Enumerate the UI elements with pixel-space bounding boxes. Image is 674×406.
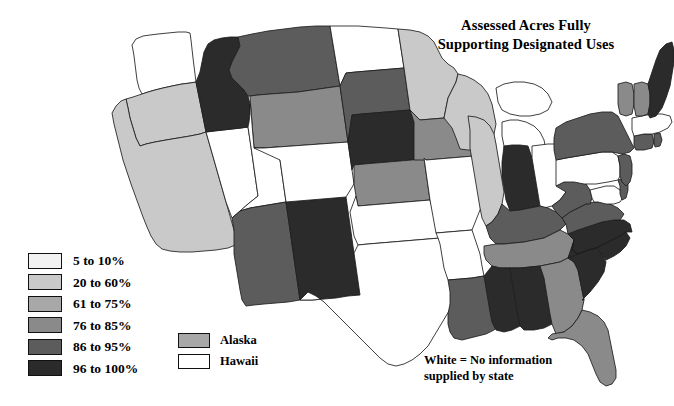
state-KS[interactable] (354, 158, 430, 206)
inset-legend-label: Hawaii (220, 355, 258, 368)
legend-label: 5 to 10% (73, 254, 125, 268)
no-data-note-line-1: White = No information (424, 352, 614, 368)
state-RI[interactable] (654, 133, 662, 147)
legend-label: 86 to 95% (73, 340, 132, 354)
legend-swatch (28, 360, 62, 376)
state-VT[interactable] (618, 82, 634, 116)
inset-legend-label: Alaska (220, 334, 257, 347)
state-NY[interactable] (554, 112, 634, 160)
no-data-note: White = No information supplied by state (424, 352, 614, 385)
legend-label: 61 to 75% (73, 297, 132, 311)
chart-title-line-2: Supporting Designated Uses (392, 35, 660, 54)
state-WY[interactable] (250, 86, 348, 148)
chart-title-line-1: Assessed Acres Fully (392, 16, 660, 35)
legend-swatch (28, 317, 62, 333)
inset-legend-alaska-hawaii: AlaskaHawaii (178, 330, 258, 372)
chart-title: Assessed Acres Fully Supporting Designat… (392, 16, 660, 53)
legend-item[interactable]: 76 to 85% (28, 315, 138, 337)
no-data-note-line-2: supplied by state (424, 368, 614, 384)
state-CT[interactable] (634, 134, 654, 150)
inset-legend-swatch (178, 333, 210, 348)
state-NH[interactable] (634, 82, 650, 116)
legend-swatch (28, 339, 62, 355)
inset-legend-swatch (178, 354, 210, 369)
legend-label: 76 to 85% (73, 319, 132, 333)
map-figure: Assessed Acres Fully Supporting Designat… (0, 0, 674, 406)
inset-legend-item[interactable]: Alaska (178, 330, 258, 351)
inset-legend-item[interactable]: Hawaii (178, 351, 258, 372)
legend-item[interactable]: 86 to 95% (28, 336, 138, 358)
state-ME[interactable] (648, 42, 674, 118)
legend-label: 96 to 100% (73, 362, 138, 376)
state-MD[interactable] (590, 186, 624, 204)
legend-swatch (28, 274, 62, 290)
legend: 5 to 10%20 to 60%61 to 75%76 to 85%86 to… (28, 250, 138, 379)
legend-label: 20 to 60% (73, 276, 132, 290)
legend-item[interactable]: 5 to 10% (28, 250, 138, 272)
legend-swatch (28, 296, 62, 312)
legend-item[interactable]: 96 to 100% (28, 358, 138, 380)
state-MT[interactable] (229, 26, 340, 96)
legend-swatch (28, 253, 62, 269)
legend-item[interactable]: 61 to 75% (28, 293, 138, 315)
legend-item[interactable]: 20 to 60% (28, 272, 138, 294)
